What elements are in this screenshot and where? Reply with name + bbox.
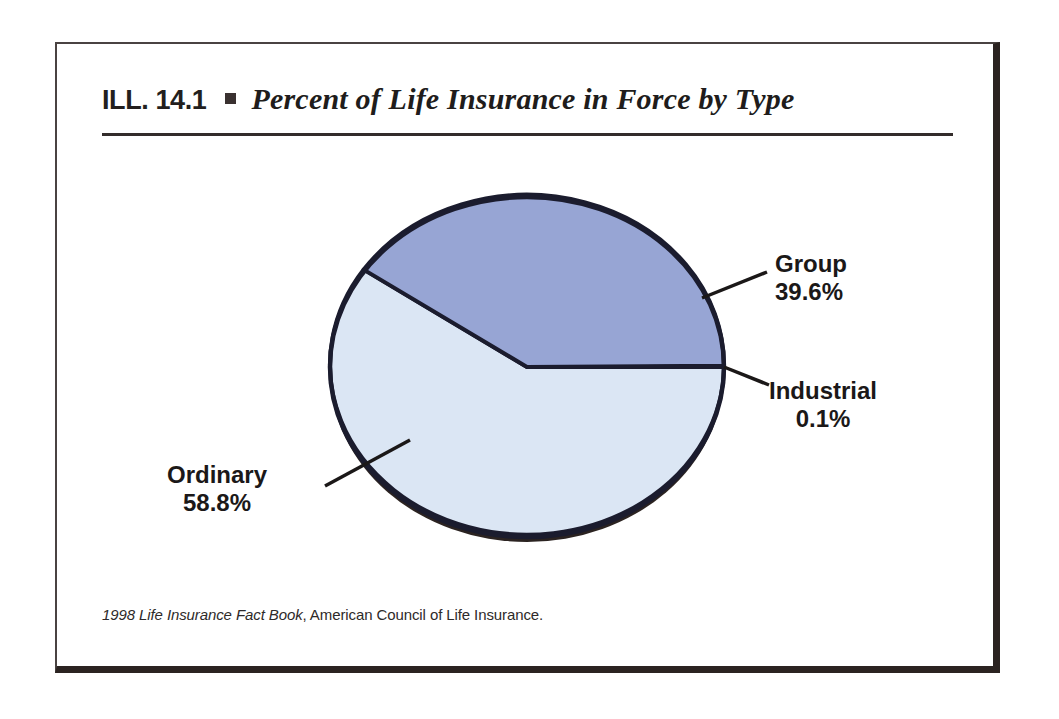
- callout-industrial-value: 0.1%: [769, 405, 877, 433]
- leader-line-industrial: [724, 367, 769, 385]
- leader-line-group: [702, 272, 767, 298]
- callout-group-value: 39.6%: [775, 278, 847, 306]
- pie-chart-svg: [57, 44, 1002, 675]
- source-publisher: , American Council of Life Insurance.: [303, 606, 544, 623]
- callout-ordinary: Ordinary 58.8%: [167, 461, 267, 517]
- callout-group-name: Group: [775, 250, 847, 278]
- callout-ordinary-value: 58.8%: [167, 489, 267, 517]
- callout-industrial: Industrial 0.1%: [769, 377, 877, 433]
- exhibit-page: ILL. 14.1 Percent of Life Insurance in F…: [0, 0, 1059, 719]
- pie-chart: Group 39.6% Industrial 0.1% Ordinary 58.…: [57, 44, 993, 666]
- callout-industrial-name: Industrial: [769, 377, 877, 405]
- pie-slice-industrial: [527, 366, 724, 368]
- exhibit-frame: ILL. 14.1 Percent of Life Insurance in F…: [55, 42, 1000, 673]
- source-note: 1998 Life Insurance Fact Book, American …: [102, 606, 543, 623]
- callout-ordinary-name: Ordinary: [167, 461, 267, 489]
- source-publication-title: 1998 Life Insurance Fact Book: [102, 606, 303, 623]
- callout-group: Group 39.6%: [775, 250, 847, 306]
